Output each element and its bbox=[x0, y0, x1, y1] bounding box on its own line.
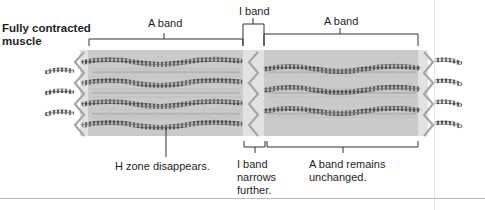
i-band-narrows-line2: narrows bbox=[237, 171, 276, 184]
a-band-right-bracket bbox=[264, 28, 418, 46]
i-band-bottom-bracket bbox=[244, 141, 265, 153]
a-band-unchanged-line1: A band remains bbox=[309, 158, 385, 171]
a-band-left-bracket bbox=[89, 33, 243, 46]
h-zone-label: H zone disappears. bbox=[115, 160, 210, 173]
i-band-narrows-label: I band narrows further. bbox=[237, 158, 276, 197]
i-band-narrows-line3: further. bbox=[237, 184, 276, 197]
i-band-top-label: I band bbox=[239, 5, 270, 18]
i-band-right-region bbox=[418, 50, 428, 136]
a-band-right-label: A band bbox=[324, 15, 358, 28]
a-band-left-label: A band bbox=[148, 17, 182, 30]
a-band-unchanged-label: A band remains unchanged. bbox=[309, 158, 385, 184]
i-band-center-region bbox=[243, 50, 264, 136]
a-band-unchanged-line2: unchanged. bbox=[309, 171, 385, 184]
i-band-narrows-line1: I band bbox=[237, 158, 276, 171]
a-band-bottom-bracket bbox=[267, 141, 418, 153]
i-band-top-bracket bbox=[243, 18, 264, 46]
